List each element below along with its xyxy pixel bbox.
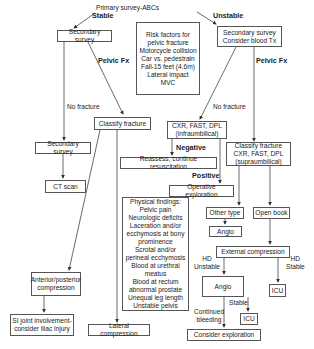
node-risk-factors: Risk factors for pelvic fracture Motorcy… (136, 22, 200, 95)
label-stable: Stable (92, 12, 114, 20)
node-operative-exploration: Operative exploration (169, 185, 234, 197)
node-classify-fracture-unstable: Classify fracture CXR, FAST, DPL (suprau… (226, 142, 291, 166)
label-pelvic-fx-left: Pelvic Fx (98, 57, 129, 65)
label-stable-small: Stable (229, 299, 248, 307)
node-icu-small: ICU (240, 313, 258, 325)
node-secondary-survey-stable: Secondary survey (57, 30, 112, 42)
node-secondary-survey-unstable: Secondary survey Consider blood Tx (217, 26, 282, 47)
node-reassess: Reassess, continue resuscitation (120, 157, 217, 169)
node-physical-findings: Physical findings: Pelvic pain Neurologi… (122, 197, 189, 311)
node-cxr-fast-dpl-infraumbilical: CXR, FAST, DPL (infraumbilical) (167, 121, 227, 139)
node-lateral-compression: Lateral compression (88, 324, 150, 336)
node-secondary-survey-2: Secondary survey (35, 142, 91, 154)
label-no-fracture-left: No fracture (67, 103, 100, 111)
label-continued-bleeding: Continued bleeding (194, 308, 224, 324)
node-classify-fracture-stable: Classify fracture (94, 117, 151, 130)
label-no-fracture-right: No fracture (213, 103, 246, 111)
node-angio-small: Angio (209, 226, 242, 237)
node-external-compression: External compression (216, 246, 290, 258)
node-angio-large: Angio (202, 276, 244, 297)
label-pelvic-fx-right: Pelvic Fx (256, 57, 287, 65)
node-primary-survey: Primary survey-ABCs (96, 4, 159, 12)
node-other-type: Other type (206, 207, 244, 219)
label-negative: Negative (176, 144, 206, 152)
node-ct-scan: CT scan (45, 180, 86, 193)
node-ap-compression: Anterior/posterior compression (31, 272, 81, 296)
node-open-book: Open book (253, 207, 290, 219)
node-icu-right: ICU (269, 284, 286, 297)
node-si-joint: SI joint involvement- consider iliac inj… (10, 314, 74, 336)
label-positive: Positive (192, 172, 220, 180)
node-consider-exploration: Consider exploration (187, 329, 261, 341)
label-unstable: Unstable (213, 12, 243, 20)
